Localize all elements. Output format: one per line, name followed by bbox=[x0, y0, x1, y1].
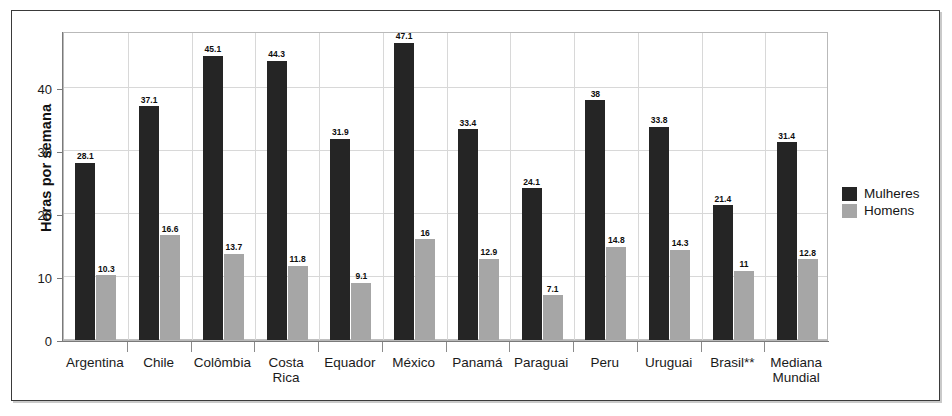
bar-women bbox=[713, 205, 733, 340]
gridline-vertical bbox=[319, 33, 320, 340]
gridline-vertical bbox=[702, 33, 703, 340]
y-tick-label: 10 bbox=[12, 272, 52, 285]
bar-value-label: 16 bbox=[407, 229, 443, 238]
gridline-horizontal bbox=[64, 150, 827, 151]
bar-value-label: 11 bbox=[726, 260, 762, 269]
bar-women bbox=[649, 127, 669, 340]
bar-women bbox=[777, 142, 797, 340]
x-tick-mark bbox=[637, 342, 638, 352]
bar-value-label: 13.7 bbox=[216, 243, 252, 252]
x-tick-mark bbox=[382, 342, 383, 352]
legend-item: Homens bbox=[842, 203, 920, 218]
gridline-vertical bbox=[447, 33, 448, 340]
gridline-vertical bbox=[255, 33, 256, 340]
y-tick-label: 20 bbox=[12, 209, 52, 222]
bar-men bbox=[606, 247, 626, 340]
x-tick-mark bbox=[318, 342, 319, 352]
x-tick-mark bbox=[254, 342, 255, 352]
y-tick-label: 40 bbox=[12, 83, 52, 96]
bar-men bbox=[670, 250, 690, 340]
bar-value-label: 24.1 bbox=[514, 178, 550, 187]
bar-men bbox=[479, 259, 499, 340]
x-category-label: Mediana Mundial bbox=[751, 355, 841, 385]
bar-men bbox=[224, 254, 244, 340]
gridline-vertical bbox=[765, 33, 766, 340]
bar-men bbox=[798, 259, 818, 340]
bar-women bbox=[139, 106, 159, 340]
bar-value-label: 21.4 bbox=[705, 195, 741, 204]
gridline-vertical bbox=[574, 33, 575, 340]
bar-value-label: 10.3 bbox=[88, 265, 124, 274]
x-tick-mark bbox=[701, 342, 702, 352]
x-tick-mark bbox=[509, 342, 510, 352]
bar-women bbox=[522, 188, 542, 340]
bar-value-label: 47.1 bbox=[386, 32, 422, 41]
chart-figure: Horas por semana 403020100 28.110.337.11… bbox=[0, 0, 952, 416]
bar-men bbox=[415, 239, 435, 340]
gridline-vertical bbox=[128, 33, 129, 340]
x-tick-mark bbox=[573, 342, 574, 352]
bar-value-label: 28.1 bbox=[67, 152, 103, 161]
bar-value-label: 44.3 bbox=[259, 50, 295, 59]
y-axis-title: Horas por semana bbox=[38, 68, 54, 268]
bar-women bbox=[75, 163, 95, 340]
bar-men bbox=[288, 266, 308, 340]
bar-value-label: 14.3 bbox=[662, 239, 698, 248]
chart-legend: MulheresHomens bbox=[842, 186, 920, 218]
legend-item: Mulheres bbox=[842, 186, 920, 201]
bar-women bbox=[458, 129, 478, 340]
plot-area: 28.110.337.116.645.113.744.311.831.99.14… bbox=[63, 32, 828, 341]
gridline-vertical bbox=[383, 33, 384, 340]
gridline-vertical bbox=[192, 33, 193, 340]
y-tick-label: 30 bbox=[12, 146, 52, 159]
bar-value-label: 14.8 bbox=[598, 236, 634, 245]
legend-swatch-icon bbox=[842, 204, 857, 218]
bar-value-label: 12.8 bbox=[790, 249, 826, 258]
bar-women bbox=[203, 56, 223, 340]
bar-women bbox=[394, 43, 414, 340]
bar-value-label: 33.8 bbox=[641, 116, 677, 125]
bar-men bbox=[543, 295, 563, 340]
bar-men bbox=[734, 271, 754, 340]
bar-value-label: 7.1 bbox=[535, 285, 571, 294]
bar-value-label: 37.1 bbox=[131, 96, 167, 105]
bar-value-label: 16.6 bbox=[152, 225, 188, 234]
figure-frame: Horas por semana 403020100 28.110.337.11… bbox=[11, 10, 940, 401]
bar-value-label: 31.9 bbox=[322, 128, 358, 137]
x-tick-mark bbox=[191, 342, 192, 352]
bar-value-label: 33.4 bbox=[450, 119, 486, 128]
bar-value-label: 11.8 bbox=[280, 255, 316, 264]
bar-men bbox=[160, 235, 180, 340]
gridline-vertical bbox=[638, 33, 639, 340]
gridline-horizontal bbox=[64, 87, 827, 88]
bar-men bbox=[96, 275, 116, 340]
bar-women bbox=[330, 139, 350, 340]
legend-swatch-icon bbox=[842, 187, 857, 201]
bar-women bbox=[585, 100, 605, 340]
bar-value-label: 38 bbox=[577, 90, 613, 99]
legend-label: Mulheres bbox=[864, 187, 920, 201]
y-tick-label: 0 bbox=[12, 335, 52, 348]
gridline-vertical bbox=[510, 33, 511, 340]
bar-value-label: 9.1 bbox=[343, 272, 379, 281]
legend-label: Homens bbox=[864, 204, 914, 218]
bar-value-label: 45.1 bbox=[195, 45, 231, 54]
bar-value-label: 31.4 bbox=[769, 132, 805, 141]
bar-men bbox=[351, 283, 371, 340]
x-tick-mark bbox=[764, 342, 765, 352]
bar-value-label: 12.9 bbox=[471, 248, 507, 257]
x-tick-mark bbox=[127, 342, 128, 352]
x-tick-mark bbox=[446, 342, 447, 352]
bar-women bbox=[267, 61, 287, 340]
